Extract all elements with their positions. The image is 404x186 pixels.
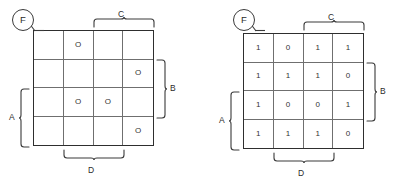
kmap-cell: 0	[274, 34, 304, 63]
kmap-cell: 0	[333, 63, 363, 92]
kmap-cell	[123, 31, 153, 60]
bracket-b-left	[157, 59, 167, 119]
bracket-d-right	[273, 153, 335, 163]
kmap-cell: 1	[304, 120, 334, 149]
bracket-c-left	[93, 18, 155, 27]
kmap-cell	[123, 88, 153, 117]
kmap-cell: O	[123, 117, 153, 146]
bracket-a-right	[229, 91, 239, 151]
kmap-cell	[34, 117, 64, 146]
bracket-d-label-left: D	[88, 166, 94, 175]
kmap-cell: 0	[333, 120, 363, 149]
bracket-b-label-right: B	[380, 87, 386, 96]
kmap-cell: 1	[304, 34, 334, 63]
kmap-cell: 1	[244, 91, 274, 120]
kmap-grid-left: O O O O O	[33, 30, 154, 146]
karnaugh-map-left: F C D A	[0, 0, 202, 186]
kmap-cell	[94, 31, 124, 60]
bracket-d-label-right: D	[298, 169, 304, 178]
kmap-cell: 0	[304, 91, 334, 120]
kmap-cell	[94, 117, 124, 146]
kmap-cell	[94, 60, 124, 89]
bracket-b-right	[367, 62, 377, 122]
kmap-cell: 1	[274, 63, 304, 92]
kmap-cell: O	[64, 31, 94, 60]
kmap-cell	[64, 117, 94, 146]
kmap-cell	[34, 60, 64, 89]
bracket-d-left	[63, 150, 125, 160]
karnaugh-map-right: F C D A	[202, 0, 404, 186]
kmap-cell: 1	[244, 120, 274, 149]
kmap-cell	[34, 88, 64, 117]
kmap-cell: 1	[333, 34, 363, 63]
bracket-a-label-right: A	[219, 116, 225, 125]
output-label-f-circle-right: F	[233, 9, 255, 31]
kmap-cell: 1	[304, 63, 334, 92]
bracket-c-label-left: C	[118, 10, 124, 19]
output-label-f-circle-left: F	[12, 9, 34, 31]
kmap-cell: 1	[244, 34, 274, 63]
karnaugh-map-figure: F C D A	[0, 0, 404, 186]
kmap-cell: 1	[333, 91, 363, 120]
bracket-c-label-right: C	[328, 13, 334, 22]
kmap-cell: 0	[274, 91, 304, 120]
kmap-cell: 1	[274, 120, 304, 149]
bracket-b-label-left: B	[170, 84, 176, 93]
bracket-c-right	[303, 21, 365, 30]
kmap-cell: O	[123, 60, 153, 89]
kmap-cell: O	[94, 88, 124, 117]
kmap-grid-right: 1 0 1 1 1 1 1 0 1 0 0 1 1 1 1 0	[243, 33, 364, 149]
bracket-a-left	[19, 88, 29, 148]
kmap-cell	[64, 60, 94, 89]
bracket-a-label-left: A	[9, 113, 15, 122]
kmap-cell: O	[64, 88, 94, 117]
kmap-cell: 1	[244, 63, 274, 92]
